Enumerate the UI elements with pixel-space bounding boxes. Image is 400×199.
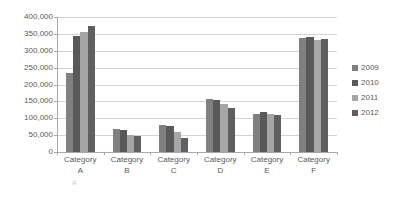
x-axis-label-line: Category <box>197 155 244 166</box>
y-axis-tick <box>54 51 57 52</box>
y-axis-tick-label: 200,000 <box>0 81 53 89</box>
x-axis-tick-label: CategoryE <box>244 155 291 176</box>
legend-item[interactable]: 2012 <box>352 105 398 120</box>
legend-label: 2009 <box>361 64 379 72</box>
legend-swatch-icon <box>352 95 358 101</box>
y-axis-tick-label: 150,000 <box>0 97 53 105</box>
bar <box>166 126 173 152</box>
bar <box>314 40 321 152</box>
cutoff-text <box>6 190 84 194</box>
bar <box>299 38 306 152</box>
y-axis-tick-label: 100,000 <box>0 114 53 122</box>
legend-item[interactable]: 2010 <box>352 75 398 90</box>
x-axis-label-line: A <box>57 166 104 177</box>
x-axis-label-line: E <box>244 166 291 177</box>
bar <box>80 32 87 152</box>
bar <box>181 138 188 152</box>
legend-label: 2011 <box>361 94 378 102</box>
y-axis-tick <box>54 68 57 69</box>
x-axis-tick <box>104 152 105 155</box>
bar <box>120 130 127 152</box>
bar <box>134 136 141 152</box>
y-axis-tick-label: 400,000 <box>0 13 53 21</box>
bar-chart: 400,000350,000300,000250,000200,000150,0… <box>0 0 400 199</box>
cutoff-glyph: A <box>72 179 77 186</box>
x-axis-label-line: D <box>197 166 244 177</box>
y-axis-tick <box>54 118 57 119</box>
plot-area <box>57 17 337 152</box>
bar <box>321 39 328 152</box>
x-axis-tick-label: CategoryD <box>197 155 244 176</box>
x-axis-tick-label: CategoryC <box>150 155 197 176</box>
x-axis-tick <box>57 152 58 155</box>
x-axis-label-line: Category <box>104 155 151 166</box>
x-axis-label-line: F <box>290 166 337 177</box>
bar <box>267 114 274 152</box>
x-axis-label-line: C <box>150 166 197 177</box>
x-axis-labels: CategoryACategoryBCategoryCCategoryDCate… <box>57 155 337 185</box>
bar <box>206 99 213 152</box>
x-axis-tick <box>197 152 198 155</box>
bar <box>159 125 166 152</box>
y-axis-tick <box>54 152 57 153</box>
y-axis-tick <box>54 85 57 86</box>
bar <box>174 132 181 152</box>
x-axis-label-line: Category <box>57 155 104 166</box>
y-axis-line <box>57 17 58 153</box>
x-axis-label-line: Category <box>290 155 337 166</box>
legend-swatch-icon <box>352 65 358 71</box>
y-axis-tick-label: 0 <box>0 148 53 156</box>
bar-group <box>244 17 291 152</box>
bar <box>113 129 120 152</box>
bar <box>274 115 281 152</box>
x-axis-tick-label: CategoryF <box>290 155 337 176</box>
bar-group <box>104 17 151 152</box>
x-axis-label-line: Category <box>150 155 197 166</box>
legend-item[interactable]: 2009 <box>352 60 398 75</box>
y-axis-tick <box>54 101 57 102</box>
bar <box>253 114 260 152</box>
y-axis-tick-label: 350,000 <box>0 30 53 38</box>
y-axis-tick-label: 300,000 <box>0 47 53 55</box>
bar <box>306 37 313 152</box>
bar <box>213 100 220 152</box>
legend-label: 2010 <box>361 79 379 87</box>
x-axis-label-line: Category <box>244 155 291 166</box>
legend-item[interactable]: 2011 <box>352 90 398 105</box>
bar <box>220 104 227 152</box>
bar-group <box>197 17 244 152</box>
chart-legend: 2009201020112012 <box>352 60 398 120</box>
y-axis-tick-label: 250,000 <box>0 64 53 72</box>
bar-group <box>57 17 104 152</box>
legend-swatch-icon <box>352 110 358 116</box>
bar <box>88 26 95 152</box>
y-axis-labels: 400,000350,000300,000250,000200,000150,0… <box>0 0 53 199</box>
x-axis-label-line: B <box>104 166 151 177</box>
bar <box>260 112 267 152</box>
legend-swatch-icon <box>352 80 358 86</box>
y-axis-tick <box>54 17 57 18</box>
x-axis-tick <box>337 152 338 155</box>
x-axis-tick-label: CategoryA <box>57 155 104 176</box>
x-axis-tick <box>290 152 291 155</box>
legend-label: 2012 <box>361 109 379 117</box>
bar <box>73 36 80 152</box>
y-axis-tick <box>54 34 57 35</box>
x-axis-tick <box>150 152 151 155</box>
bar <box>127 135 134 152</box>
bar-group <box>150 17 197 152</box>
y-axis-tick <box>54 135 57 136</box>
bar <box>66 73 73 152</box>
bar <box>228 108 235 152</box>
x-axis-tick <box>244 152 245 155</box>
x-axis-tick-label: CategoryB <box>104 155 151 176</box>
y-axis-tick-label: 50,000 <box>0 131 53 139</box>
bar-group <box>290 17 337 152</box>
